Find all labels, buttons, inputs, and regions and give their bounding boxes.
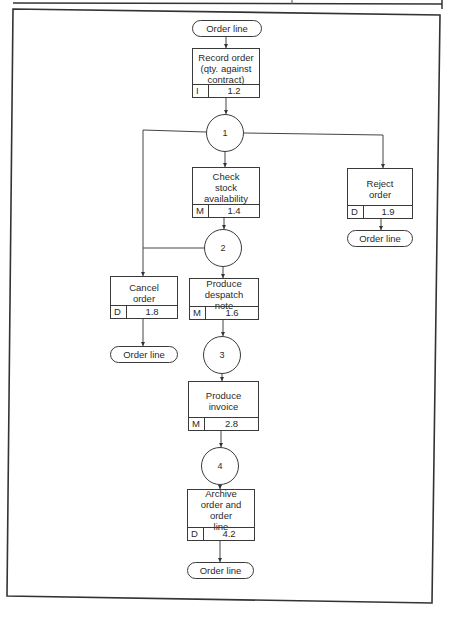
process-footer: D 1.8 — [111, 305, 177, 318]
process-record-order: Record order (qty. against contract) I 1… — [192, 48, 260, 98]
process-footer: M 2.8 — [189, 417, 258, 430]
process-title: Archive order and order line — [188, 490, 254, 530]
process-title: Record order (qty. against contract) — [193, 49, 259, 87]
process-check-stock: Check stock availability M 1.4 — [192, 167, 260, 218]
process-footer: D 1.9 — [348, 205, 412, 218]
process-number: 2.8 — [205, 418, 258, 430]
terminator-final-order-line: Order line — [187, 562, 254, 579]
state-circle-2: 2 — [204, 229, 242, 267]
process-code: D — [111, 306, 127, 318]
process-title: Produce despatch note — [190, 279, 258, 309]
process-title: Produce invoice — [189, 382, 258, 420]
process-number: 1.8 — [127, 306, 177, 318]
process-title: Cancel order — [111, 277, 177, 308]
process-footer: I 1.2 — [193, 84, 259, 97]
process-number: 1.9 — [364, 206, 412, 218]
state-circle-1: 1 — [206, 114, 244, 152]
process-code: M — [190, 307, 206, 319]
state-circle-3: 3 — [203, 336, 241, 374]
process-cancel-order: Cancel order D 1.8 — [110, 276, 178, 319]
process-produce-despatch-note: Produce despatch note M 1.6 — [189, 278, 259, 320]
terminator-start-order-line: Order line — [192, 20, 262, 37]
terminator-reject-order-line: Order line — [347, 230, 413, 247]
process-code: D — [348, 206, 364, 218]
process-reject-order: Reject order D 1.9 — [347, 168, 413, 219]
process-code: D — [188, 528, 204, 540]
state-circle-4: 4 — [201, 447, 239, 485]
process-archive-order: Archive order and order line D 4.2 — [187, 489, 255, 541]
process-code: I — [193, 85, 209, 97]
process-title: Reject order — [348, 169, 412, 208]
process-number: 1.6 — [206, 307, 258, 319]
process-code: M — [189, 418, 205, 430]
process-number: 1.4 — [209, 205, 259, 217]
process-number: 4.2 — [204, 528, 254, 540]
process-title: Check stock availability — [193, 168, 259, 207]
process-footer: M 1.4 — [193, 204, 259, 217]
process-produce-invoice: Produce invoice M 2.8 — [188, 381, 259, 431]
process-footer: D 4.2 — [188, 527, 254, 540]
terminator-cancel-order-line: Order line — [110, 346, 178, 363]
process-footer: M 1.6 — [190, 306, 258, 319]
process-code: M — [193, 205, 209, 217]
process-number: 1.2 — [209, 85, 259, 97]
